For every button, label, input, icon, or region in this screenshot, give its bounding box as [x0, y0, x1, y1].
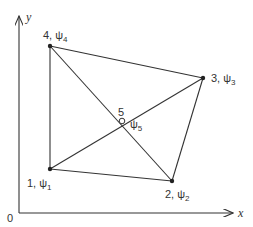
node-1-label: 1, ψ1	[27, 177, 52, 192]
edge-1-2	[50, 169, 172, 181]
node-2-label: 2, ψ2	[165, 188, 190, 203]
node-3-label: 3, ψ3	[211, 72, 236, 87]
node-4-marker	[48, 44, 52, 48]
origin-label: 0	[7, 212, 13, 224]
node-5-marker	[119, 118, 125, 124]
element-edges	[50, 46, 203, 181]
y-axis-label: y	[25, 10, 32, 24]
node-5-psi: ψ5	[130, 118, 143, 133]
x-axis-label: x	[237, 206, 244, 220]
node-5-number: 5	[118, 106, 124, 118]
edge-3-4	[50, 46, 203, 78]
element-diagram: 0 x y 1, ψ1 2, ψ2 3, ψ3 4, ψ4 5 ψ5	[0, 0, 253, 227]
diagonal-4-2	[50, 46, 172, 181]
node-4-label: 4, ψ4	[43, 29, 68, 44]
node-2-marker	[170, 179, 174, 183]
node-3-marker	[201, 76, 205, 80]
node-1-marker	[48, 167, 52, 171]
